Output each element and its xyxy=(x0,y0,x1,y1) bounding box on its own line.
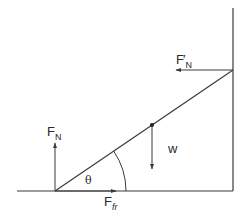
angle-arc xyxy=(114,151,126,191)
ladder-line xyxy=(55,70,233,191)
wall-normal-label: F′N xyxy=(176,52,192,70)
weight-label: w xyxy=(167,141,178,156)
floor-normal-label: FN xyxy=(47,124,61,142)
angle-label: θ xyxy=(85,174,92,187)
friction-label: Ffr xyxy=(104,194,118,212)
ladder-force-diagram: F′N FN Ffr w θ xyxy=(0,0,245,219)
